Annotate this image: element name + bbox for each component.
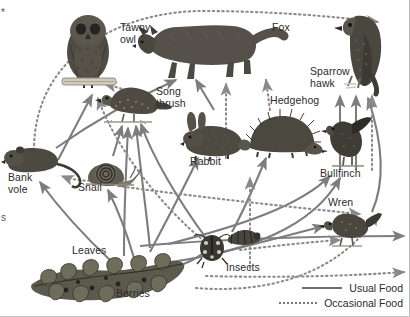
label-rabbit: Rabbit	[190, 156, 221, 168]
organism-fox	[132, 25, 284, 79]
left-margin-fragment-mid: s	[1, 212, 6, 223]
organism-rabbit	[180, 112, 251, 161]
label-insects: Insects	[226, 262, 260, 274]
legend-label-usual-food: Usual Food	[349, 282, 403, 294]
label-sparrow-hawk: Sparrow hawk	[310, 66, 350, 89]
left-margin-fragment-top: *	[1, 7, 5, 18]
label-wren: Wren	[328, 197, 353, 209]
legend-dotted-line-icon	[277, 298, 317, 308]
label-leaves: Leaves	[72, 245, 106, 257]
label-tawny-owl: Tawny owl	[120, 22, 150, 45]
legend-solid-line-icon	[302, 283, 342, 293]
organism-bullfinch	[321, 117, 372, 166]
label-bullfinch: Bullfinch	[320, 168, 361, 180]
legend-label-occasional-food: Occasional Food	[324, 297, 403, 309]
legend-item-occasional-food: Occasional Food	[277, 295, 403, 310]
label-song-thrush: Song thrush	[156, 86, 186, 109]
food-web-diagram: * s	[0, 0, 410, 317]
label-fox: Fox	[272, 22, 290, 34]
legend: Usual Food Occasional Food	[277, 280, 403, 310]
label-bank-vole: Bank vole	[8, 172, 32, 195]
label-berries: Berries	[116, 288, 150, 300]
label-hedgehog: Hedgehog	[270, 95, 319, 107]
organism-leaves-berries	[31, 254, 184, 302]
organism-tawny-owl	[62, 15, 116, 88]
organism-hedgehog	[246, 109, 328, 158]
label-snail: Snail	[78, 182, 102, 194]
legend-item-usual-food: Usual Food	[277, 280, 403, 295]
